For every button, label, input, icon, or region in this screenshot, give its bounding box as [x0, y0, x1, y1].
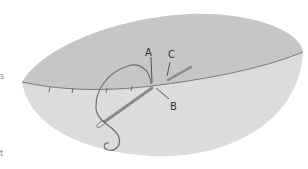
label-b: B: [170, 101, 177, 112]
label-a: A: [145, 47, 152, 58]
edge-fragment-upper: s: [0, 72, 4, 81]
stitch-diagram: A C B s t: [0, 0, 308, 169]
edge-fragment-lower: t: [0, 149, 3, 158]
label-c: C: [168, 49, 175, 60]
